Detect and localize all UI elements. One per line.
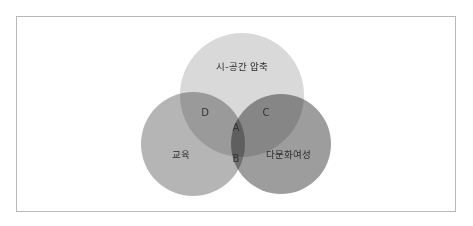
circle-multicultural-women [231, 94, 331, 194]
region-d-label: D [201, 107, 209, 118]
region-a-label: A [233, 122, 240, 133]
label-time-space-compression: 시-공간 압축 [216, 61, 267, 72]
circle-education [141, 92, 245, 196]
region-c-label: C [263, 107, 270, 118]
region-b-label: B [233, 153, 240, 164]
label-education: 교육 [172, 149, 190, 160]
label-multicultural-women: 다문화여성 [266, 149, 311, 160]
venn-diagram: 시-공간 압축 교육 다문화여성 D C A B [0, 0, 473, 226]
